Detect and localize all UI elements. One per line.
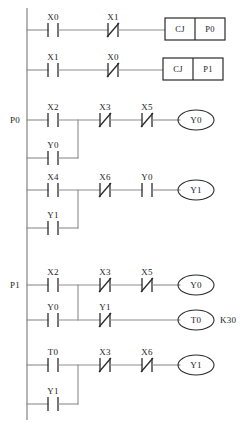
label-rung-4-branch-y1: Y1 — [47, 210, 58, 220]
rung-3-contact-x2[interactable] — [48, 113, 58, 127]
ladder-diagram-canvas: P0 P1 X0 X1 CJ P0 X1 X0 CJ P1 X2 X3 X5 Y… — [0, 0, 244, 429]
rung-4-contact-x6[interactable] — [99, 183, 111, 197]
rung-3 — [27, 110, 214, 165]
rung-4-contact-x4[interactable] — [48, 183, 58, 197]
label-rung-3-contact-x2: X2 — [47, 102, 58, 112]
rung-5-branch-contact-y0[interactable] — [48, 313, 58, 327]
label-rung-4-coil-y1: Y1 — [190, 185, 201, 195]
rung-4-branch-contact-y1[interactable] — [48, 221, 58, 235]
rung-5-branch-contact-y1[interactable] — [99, 313, 111, 327]
rung-5-contact-x3[interactable] — [99, 278, 111, 292]
label-rung-6-coil-y1: Y1 — [190, 360, 201, 370]
label-rung-5-coil-y0: Y0 — [190, 280, 201, 290]
rung-6-contact-x6[interactable] — [141, 358, 153, 372]
rung-6-contact-t0[interactable] — [48, 358, 58, 372]
label-rung-2-box-p1: P1 — [203, 64, 212, 74]
label-rung-5-coil-t0: T0 — [191, 315, 201, 325]
label-rung-5-branch-y0: Y0 — [47, 302, 58, 312]
rung-3-contact-x3[interactable] — [99, 113, 111, 127]
rung-6-branch-contact-y1[interactable] — [48, 397, 58, 411]
rung-2-contact-x1[interactable] — [48, 63, 58, 77]
rung-2-instruction-box[interactable] — [163, 58, 223, 80]
label-rung-1-contact-x1: X1 — [107, 12, 118, 22]
label-rung-6-contact-x3: X3 — [99, 347, 110, 357]
rung-4 — [27, 180, 214, 235]
label-rung-1-box-p0: P0 — [205, 24, 214, 34]
rail-label-p1: P1 — [10, 280, 20, 290]
label-rung-3-coil-y0: Y0 — [190, 115, 201, 125]
rung-1-instruction-box[interactable] — [165, 18, 225, 40]
label-rung-1-contact-x0: X0 — [47, 12, 58, 22]
label-rung-5-branch-y1: Y1 — [99, 302, 110, 312]
rung-6-contact-x3[interactable] — [99, 358, 111, 372]
label-rung-6-branch-y1: Y1 — [47, 386, 58, 396]
rung-4-contact-y0[interactable] — [142, 183, 152, 197]
rung-5-contact-x2[interactable] — [48, 278, 58, 292]
label-rung-2-contact-x0: X0 — [107, 52, 118, 62]
label-rung-5-contact-x5: X5 — [141, 267, 152, 277]
label-rung-3-contact-x5: X5 — [141, 102, 152, 112]
label-rung-1-box-cj: CJ — [175, 24, 184, 34]
label-rung-5-contact-x2: X2 — [47, 267, 58, 277]
rung-1-contact-x1[interactable] — [107, 23, 119, 37]
rung-2-contact-x0[interactable] — [107, 63, 119, 77]
label-rung-4-contact-x6: X6 — [99, 172, 110, 182]
label-rung-4-contact-y0: Y0 — [141, 172, 152, 182]
label-rung-3-branch-y0: Y0 — [47, 140, 58, 150]
label-rung-3-contact-x3: X3 — [99, 102, 110, 112]
label-rung-2-box-cj: CJ — [173, 64, 182, 74]
label-rung-5-contact-x3: X3 — [99, 267, 110, 277]
rung-1-contact-x0[interactable] — [48, 23, 58, 37]
label-rung-2-contact-x1: X1 — [47, 52, 58, 62]
rung-6 — [27, 355, 214, 411]
rail-label-p0: P0 — [10, 115, 20, 125]
rung-5-contact-x5[interactable] — [141, 278, 153, 292]
label-rung-4-contact-x4: X4 — [47, 172, 58, 182]
label-rung-6-contact-x6: X6 — [141, 347, 152, 357]
label-rung-6-contact-t0: T0 — [48, 347, 58, 357]
label-rung-5-timer-preset-k30: K30 — [220, 315, 236, 325]
rung-3-contact-x5[interactable] — [141, 113, 153, 127]
rung-3-branch-contact-y0[interactable] — [48, 151, 58, 165]
